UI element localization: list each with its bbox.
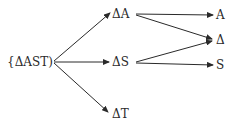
node-s: S [216, 59, 224, 71]
edge-dS-S [136, 63, 213, 65]
node-delta-s: ΔS [112, 56, 129, 68]
node-delta-a: ΔA [112, 8, 129, 20]
edge-dS-Delta [136, 41, 212, 62]
node-a: A [216, 9, 225, 21]
edge-root-dT [54, 63, 108, 112]
edge-dA-A [136, 14, 213, 15]
node-delta: Δ [216, 34, 225, 46]
edge-root-dA [54, 13, 110, 61]
edge-dA-Delta [136, 15, 212, 39]
node-root: {ΔAST) [7, 56, 53, 68]
node-delta-t: ΔT [112, 108, 129, 120]
